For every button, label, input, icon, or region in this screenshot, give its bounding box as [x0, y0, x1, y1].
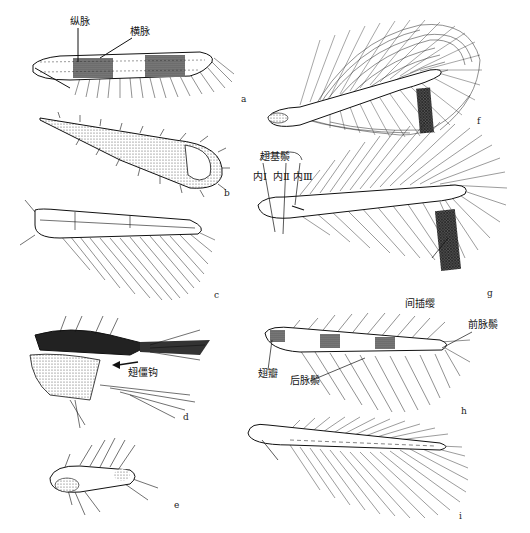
label-fore-vein-setae: 前脉鬃	[468, 320, 498, 330]
panel-letter-f: f	[477, 116, 480, 126]
wing-b	[40, 112, 230, 197]
panel-letter-i: i	[459, 511, 462, 521]
panel-letter-c: c	[214, 290, 219, 300]
label-basal-setae: 翅基鬃	[260, 152, 290, 162]
label-longitudinal-vein: 纵脉	[70, 17, 90, 27]
panel-letter-d: d	[183, 412, 189, 422]
wing-illustrations	[0, 0, 530, 533]
wing-c	[20, 200, 215, 300]
panel-letter-h: h	[461, 406, 467, 416]
label-hind-vein-setae: 后脉鬃	[290, 376, 320, 386]
label-inner-2: 内Ⅱ	[273, 172, 290, 182]
panel-letter-g: g	[487, 288, 493, 298]
label-wing-hook: 翅僵钩	[128, 368, 158, 378]
panel-letter-b: b	[224, 188, 230, 198]
label-interfringe: 间插缨	[405, 299, 435, 309]
label-wing-lobe: 翅瓣	[258, 369, 278, 379]
wing-e	[50, 438, 158, 515]
wing-f	[268, 20, 482, 137]
label-cross-vein: 横脉	[130, 27, 150, 37]
wing-a	[33, 28, 234, 98]
label-inner-1: 内Ⅰ	[253, 172, 267, 182]
label-inner-3: 内Ⅲ	[293, 172, 313, 182]
wing-h	[265, 313, 472, 412]
wing-i	[248, 417, 468, 518]
wing-g	[258, 122, 507, 271]
panel-letter-e: e	[174, 500, 179, 510]
panel-letter-a: a	[241, 94, 246, 104]
